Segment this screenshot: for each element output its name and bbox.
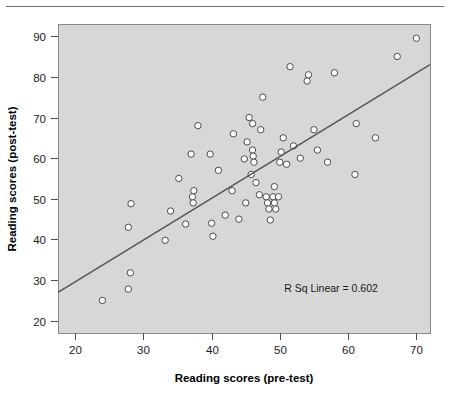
scatter-point [271, 200, 277, 206]
scatter-point [241, 156, 247, 162]
scatter-point [190, 200, 196, 206]
scatter-point [271, 183, 277, 189]
scatter-point [256, 192, 262, 198]
scatter-point [305, 72, 311, 78]
scatter-point [249, 120, 255, 126]
scatter-point [127, 270, 133, 276]
scatter-point [283, 161, 289, 167]
scatter-point [372, 135, 378, 141]
y-tick-label: 40 [33, 234, 46, 246]
scatter-point [162, 237, 168, 243]
scatter-point [413, 35, 419, 41]
x-axis-title: Reading scores (pre-test) [175, 372, 314, 384]
scatter-point [195, 122, 201, 128]
y-tick-label: 60 [33, 153, 46, 165]
scatter-point [243, 200, 249, 206]
x-tick-label: 60 [342, 344, 355, 356]
scatter-point [331, 70, 337, 76]
scatter-point [229, 187, 235, 193]
r-squared-annotation: R Sq Linear = 0.602 [284, 282, 378, 294]
scatter-point [267, 217, 273, 223]
scatter-point [287, 63, 293, 69]
scatter-point [125, 224, 131, 230]
y-tick-label: 20 [33, 316, 46, 328]
y-tick-label: 70 [33, 113, 46, 125]
x-axis-ticks: 203040506070 [69, 333, 423, 356]
scatter-point [99, 297, 105, 303]
x-tick-label: 50 [274, 344, 287, 356]
x-tick-label: 40 [206, 344, 219, 356]
scatter-point [128, 201, 134, 207]
scatter-point [324, 159, 330, 165]
scatter-point [258, 127, 264, 133]
scatter-point [253, 179, 259, 185]
scatter-point [353, 120, 359, 126]
y-tick-label: 30 [33, 275, 46, 287]
scatter-point [167, 208, 173, 214]
scatter-point [394, 53, 400, 59]
scatter-point [207, 151, 213, 157]
y-axis-ticks: 2030405060708090 [33, 31, 58, 328]
scatter-point [352, 171, 358, 177]
scatter-point [188, 151, 194, 157]
scatter-point [208, 220, 214, 226]
scatter-point [125, 286, 131, 292]
scatter-point [215, 167, 221, 173]
scatter-point [249, 147, 255, 153]
x-tick-label: 20 [69, 344, 82, 356]
scatter-point [189, 194, 195, 200]
scatter-point [273, 206, 279, 212]
scatter-point [236, 216, 242, 222]
scatter-point [176, 175, 182, 181]
scatter-point [182, 221, 188, 227]
scatter-plot-figure: 203040506070 2030405060708090 R Sq Linea… [0, 0, 450, 399]
scatter-point [264, 200, 270, 206]
y-axis-title: Reading scores (post-test) [6, 106, 18, 251]
y-tick-label: 80 [33, 72, 46, 84]
scatter-point [210, 233, 216, 239]
scatter-point [244, 139, 250, 145]
scatter-point [260, 94, 266, 100]
scatter-point [266, 206, 272, 212]
scatter-point [314, 147, 320, 153]
scatter-point [304, 78, 310, 84]
scatter-point [246, 114, 252, 120]
scatter-point [250, 153, 256, 159]
scatter-point [222, 212, 228, 218]
chart-canvas: 203040506070 2030405060708090 R Sq Linea… [0, 0, 450, 399]
x-tick-label: 30 [137, 344, 150, 356]
scatter-point [275, 194, 281, 200]
scatter-point [280, 135, 286, 141]
scatter-point [297, 155, 303, 161]
scatter-point [277, 159, 283, 165]
annotations-group: R Sq Linear = 0.602 [284, 282, 378, 294]
scatter-point [263, 194, 269, 200]
y-tick-label: 90 [33, 31, 46, 43]
scatter-point [311, 127, 317, 133]
scatter-point [191, 187, 197, 193]
scatter-point [251, 159, 257, 165]
y-tick-label: 50 [33, 194, 46, 206]
scatter-point [230, 131, 236, 137]
x-tick-label: 70 [410, 344, 423, 356]
